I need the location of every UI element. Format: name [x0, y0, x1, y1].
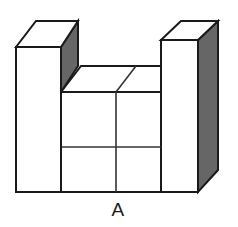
middle-row-group	[61, 66, 161, 192]
figure-caption-text: A	[111, 199, 124, 220]
right-tower-front-face	[161, 40, 198, 192]
figure-caption: A	[0, 198, 238, 222]
middle-row-front-face	[61, 92, 161, 192]
isometric-block-figure	[0, 0, 238, 227]
block-figure-container: A	[0, 0, 238, 227]
left-tower-front-face	[16, 47, 61, 192]
right-tower-group	[161, 21, 218, 192]
right-tower-side-face	[198, 21, 218, 192]
